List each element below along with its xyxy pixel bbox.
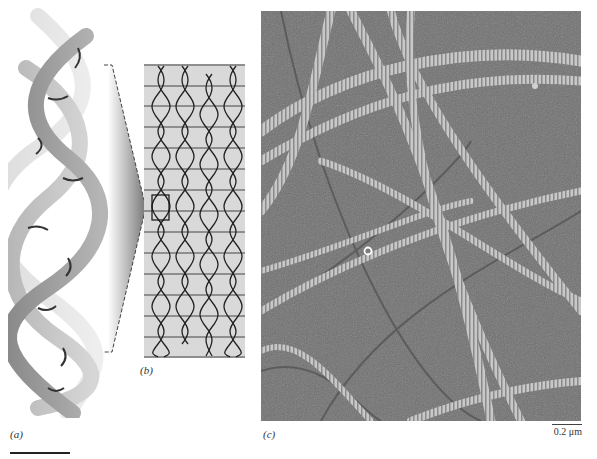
panel-a-label: (a) xyxy=(10,428,23,440)
zoom-bracket xyxy=(100,60,150,360)
panel-b-label: (b) xyxy=(140,364,153,376)
panel-c-micrograph xyxy=(261,11,581,421)
scale-bar-c: 0.2 μm xyxy=(552,424,582,437)
scale-bar-a xyxy=(10,452,70,454)
panel-b-staggered-array: (b) xyxy=(144,64,245,358)
triple-helix-illustration xyxy=(8,8,108,418)
collagen-fibrils-micrograph xyxy=(261,11,581,421)
panel-c-label: (c) xyxy=(263,428,275,440)
panel-a-triple-helix: (a) xyxy=(8,8,108,418)
staggered-array-diagram xyxy=(144,64,245,358)
